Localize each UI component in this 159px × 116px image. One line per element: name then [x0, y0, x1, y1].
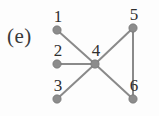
graph-node-4[interactable] — [91, 60, 99, 68]
graph-node-label-1: 1 — [54, 7, 63, 26]
graph-edge-4-6 — [95, 64, 133, 99]
graph-node-3[interactable] — [53, 95, 61, 103]
figure-panel: (e) 123456 — [0, 0, 159, 116]
graph-node-2[interactable] — [53, 60, 61, 68]
graph-node-label-3: 3 — [54, 76, 63, 95]
graph-edge-1-4 — [57, 30, 95, 64]
graph-node-label-6: 6 — [130, 76, 139, 95]
graph-node-label-5: 5 — [130, 5, 139, 24]
graph-node-6[interactable] — [129, 95, 137, 103]
graph-diagram: 123456 — [0, 0, 159, 116]
graph-edge-3-4 — [57, 64, 95, 99]
graph-node-5[interactable] — [129, 24, 137, 32]
graph-edge-4-5 — [95, 28, 133, 64]
node-labels-layer: 123456 — [54, 5, 139, 95]
graph-node-label-4: 4 — [92, 41, 101, 60]
graph-node-1[interactable] — [53, 26, 61, 34]
graph-node-label-2: 2 — [54, 41, 63, 60]
